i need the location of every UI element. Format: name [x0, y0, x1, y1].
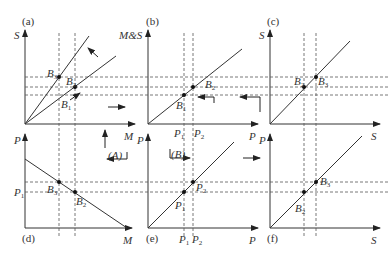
- panel-e-x-label: P: [249, 235, 256, 246]
- panel-f-tag: (f): [267, 233, 278, 244]
- annotation-b: (B): [171, 149, 185, 160]
- label-a-b3: B3: [47, 68, 57, 81]
- panel-b-tag: (b): [146, 16, 159, 27]
- tick-b-p2: P2: [194, 128, 204, 141]
- label-b-b1: B1: [176, 100, 186, 113]
- label-e-p1: P1: [175, 200, 185, 213]
- panel-a-tag: (a): [22, 16, 34, 27]
- label-f-b2: B2: [295, 203, 305, 216]
- panel-e-y-label: P: [137, 135, 144, 146]
- panel-c-x-label: S: [371, 131, 377, 142]
- panel-b-y-label: M&S: [119, 30, 142, 41]
- label-d-b3: B3: [47, 184, 57, 197]
- shift-arrows: [70, 48, 260, 159]
- panel-f-x-label: S: [371, 235, 377, 246]
- label-a-b1: B1: [61, 99, 71, 112]
- panel-c-y-label: S: [259, 30, 265, 41]
- label-b-b2: B2: [205, 79, 215, 92]
- label-f-b3: B3: [320, 176, 330, 189]
- label-e-p2: P2: [196, 182, 206, 195]
- panel-a-x-label: M: [124, 131, 133, 142]
- tick-b-p1: P1: [174, 128, 184, 141]
- panel-c-tag: (c): [267, 16, 279, 27]
- panel-e-tag: (e): [146, 233, 158, 244]
- panel-d-y-label: P: [14, 135, 21, 146]
- panel-e-axes: [148, 134, 258, 228]
- panel-d-x-label: M: [123, 235, 132, 246]
- annotation-a: (A): [108, 150, 122, 161]
- label-c-b2: B2: [294, 76, 304, 89]
- panel-f-y-label: P: [259, 135, 266, 146]
- tick-e-p2: P2: [192, 234, 202, 247]
- tick-e-p1: P1: [179, 234, 189, 247]
- tick-d-p1: P1: [14, 187, 24, 200]
- panel-d-tag: (d): [22, 233, 35, 244]
- label-c-b3: B3: [318, 76, 328, 89]
- panel-a-y-label: S: [14, 30, 20, 41]
- panel-b-x-label: P: [249, 131, 256, 142]
- label-d-b2: B2: [76, 196, 86, 209]
- label-a-b2: B2: [66, 76, 76, 89]
